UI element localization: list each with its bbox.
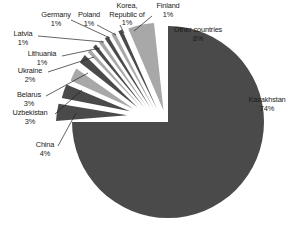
label-china: China 4% xyxy=(28,141,62,158)
label-uzbekistan-pct: 3% xyxy=(2,118,58,127)
pie-slice-other-countries[interactable] xyxy=(128,23,163,110)
label-korea-pct: 1% xyxy=(105,19,149,28)
label-lithuania: Lithuania 1% xyxy=(18,50,66,67)
pie-slices xyxy=(56,23,264,218)
label-latvia: Latvia 1% xyxy=(4,30,42,47)
label-finland-pct: 1% xyxy=(150,11,186,20)
label-china-pct: 4% xyxy=(28,150,62,159)
label-poland-pct: 1% xyxy=(72,20,106,29)
label-other-countries-pct: 8% xyxy=(160,35,236,44)
label-korea-name: Korea, Republic of xyxy=(105,2,149,19)
label-belarus: Belarus 3% xyxy=(8,91,50,108)
leader-line-latvia xyxy=(38,36,104,42)
label-latvia-pct: 1% xyxy=(4,39,42,48)
label-ukraine-pct: 2% xyxy=(8,76,52,85)
label-kazakhstan: Kazakhstan 74% xyxy=(236,96,298,113)
label-other-countries: Other countries 8% xyxy=(160,26,236,43)
pie-chart: Germany 1% Poland 1% Korea, Republic of … xyxy=(0,0,301,230)
label-uzbekistan: Uzbekistan 3% xyxy=(2,109,58,126)
label-korea: Korea, Republic of 1% xyxy=(105,2,149,28)
label-ukraine: Ukraine 2% xyxy=(8,67,52,84)
label-finland: Finland 1% xyxy=(150,2,186,19)
label-belarus-pct: 3% xyxy=(8,100,50,109)
label-poland: Poland 1% xyxy=(72,11,106,28)
label-kazakhstan-pct: 74% xyxy=(236,105,298,114)
